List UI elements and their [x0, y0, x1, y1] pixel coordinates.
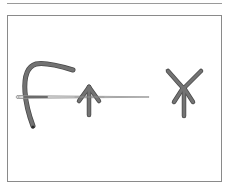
- stitch-diagram: [0, 0, 227, 186]
- thread-end-icon: [31, 125, 34, 128]
